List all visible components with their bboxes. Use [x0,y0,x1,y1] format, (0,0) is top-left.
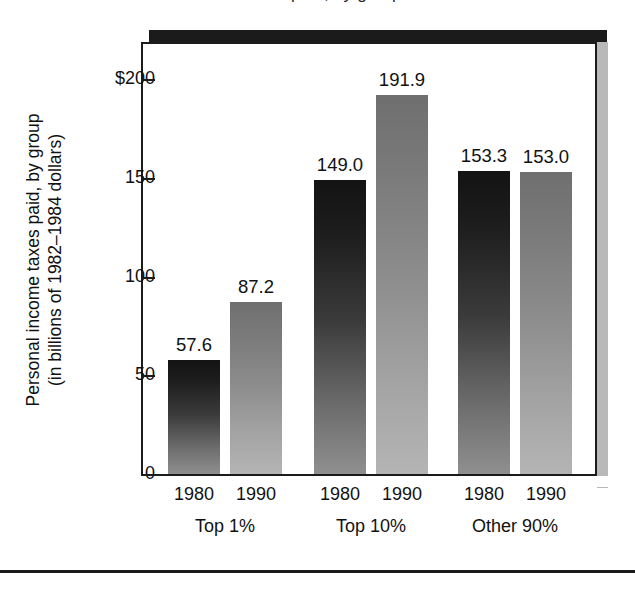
bar [376,95,428,474]
bar [230,302,282,474]
bar [314,180,366,474]
bars-layer: 57.687.2149.0191.9153.3153.0 [143,44,595,474]
x-axis-group-label: Other 90% [445,516,585,537]
bar [520,172,572,474]
x-axis-year-label: 1990 [216,484,296,505]
x-axis-group-label: Top 1% [155,516,295,537]
bar-value-label: 57.6 [158,334,230,356]
bar-value-label: 149.0 [304,154,376,176]
bottom-divider [0,570,635,573]
plot-shadow-gray-right [597,42,608,488]
y-axis-title-line-2: (in billions of 1982–1984 dollars) [44,134,66,386]
x-axis-labels: 198019901980199019801990Top 1%Top 10%Oth… [0,0,635,100]
y-axis-title-line-1: Personal income taxes paid, by group [22,114,44,407]
x-axis-year-label: 1990 [362,484,442,505]
y-axis-tick-mark [141,474,155,476]
bar-value-label: 153.0 [510,146,582,168]
bar [458,171,510,474]
x-axis-year-label: 1990 [506,484,586,505]
chart-figure: Personal income taxes paid, by group Per… [0,0,635,590]
bar [168,360,220,474]
bar-value-label: 87.2 [220,276,292,298]
x-axis-group-label: Top 10% [301,516,441,537]
